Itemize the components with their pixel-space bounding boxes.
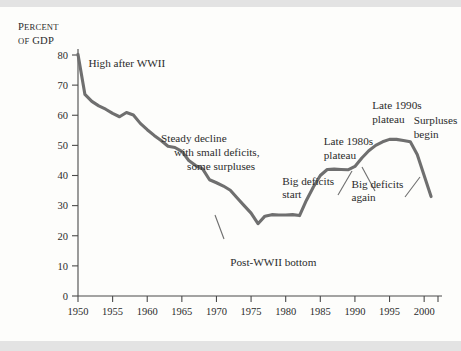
y-axis-title-line1: PERCENT: [18, 21, 59, 32]
x-tick-label: 1955: [102, 306, 123, 317]
y-axis-title: PERCENT OF GDP: [18, 21, 59, 46]
x-tick-label: 1995: [379, 306, 400, 317]
data-line: [78, 54, 431, 223]
chart-figure: PERCENT OF GDP 01020304050607080 1950195…: [0, 0, 461, 351]
x-tick-label: 2000: [414, 306, 435, 317]
y-tick-label: 80: [58, 50, 69, 61]
x-tick-label: 1985: [310, 306, 331, 317]
annotation-late-1980s-plateau: plateau: [324, 149, 357, 161]
chart-svg: PERCENT OF GDP 01020304050607080 1950195…: [0, 7, 461, 341]
plot-area: PERCENT OF GDP 01020304050607080 1950195…: [0, 7, 461, 341]
annotation-steady-decline: some surpluses: [187, 160, 255, 172]
y-tick-label: 40: [58, 170, 69, 181]
annotation-surpluses-begin: Surpluses: [414, 114, 458, 126]
annotation-surpluses-begin: begin: [414, 128, 439, 140]
y-tick-labels: 01020304050607080: [58, 50, 69, 302]
x-tick-label: 1970: [206, 306, 227, 317]
annotation-big-deficits-start: start: [282, 188, 302, 200]
y-tick-label: 70: [58, 80, 69, 91]
top-band: [0, 0, 461, 7]
annotation-big-deficits-again: Big deficits: [351, 178, 403, 190]
annotation-high-after-wwii: High after WWII: [88, 57, 165, 69]
annotation-late-1990s-plateau: Late 1990s: [372, 99, 421, 111]
y-tick-label: 60: [58, 110, 69, 121]
y-tick-label: 50: [58, 140, 69, 151]
leader-surpluses-begin: [405, 177, 420, 197]
annotations: High after WWIISteady declinewith small …: [88, 57, 457, 268]
x-tick-label: 1990: [344, 306, 365, 317]
bottom-band: [0, 341, 461, 351]
y-tick-label: 20: [58, 231, 69, 242]
x-tick-labels: 1950195519601965197019751980198519901995…: [68, 306, 435, 317]
annotation-late-1980s-plateau: Late 1980s: [324, 135, 373, 147]
annotation-big-deficits-again: again: [351, 191, 376, 203]
annotation-post-wwii-bottom: Post-WWII bottom: [230, 256, 316, 268]
annotation-big-deficits-start: Big deficits: [282, 175, 334, 187]
x-tick-label: 1950: [68, 306, 89, 317]
y-tick-label: 30: [58, 200, 69, 211]
x-tick-label: 1965: [171, 306, 192, 317]
x-tick-label: 1975: [241, 306, 262, 317]
y-axis-title-line2: OF GDP: [18, 35, 54, 46]
y-tick-label: 10: [58, 261, 69, 272]
leader-post-wwii-bottom: [215, 215, 224, 239]
annotation-steady-decline: with small deficits,: [174, 146, 260, 158]
leader-late-1990s-plateau: [338, 171, 352, 195]
x-tick-label: 1980: [275, 306, 296, 317]
x-tick-label: 1960: [137, 306, 158, 317]
annotation-steady-decline: Steady decline: [161, 132, 227, 144]
series-line: [78, 54, 431, 223]
y-tick-label: 0: [63, 291, 68, 302]
annotation-late-1990s-plateau: plateau: [372, 113, 405, 125]
